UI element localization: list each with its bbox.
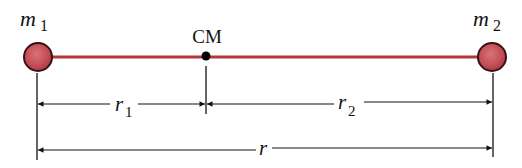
r2-subscript: 2 [348, 103, 356, 119]
mass-m2: m 2 [473, 6, 506, 71]
r2-symbol: r [338, 90, 347, 114]
center-of-mass: CM [192, 26, 222, 61]
r1-symbol: r [115, 92, 124, 116]
mass-m1-symbol: m [20, 6, 36, 31]
r1-subscript: 1 [125, 104, 133, 120]
cm-dot [202, 52, 211, 61]
dimension-r: r [38, 136, 492, 160]
cm-label: CM [192, 26, 222, 47]
mass-m2-subscript: 2 [493, 17, 501, 34]
mass-m1-subscript: 1 [40, 17, 48, 34]
dimension-r2: r 2 [207, 90, 492, 119]
center-of-mass-diagram: m 1 m 2 CM r 1 r 2 r [0, 0, 522, 168]
mass-m1: m 1 [20, 6, 52, 71]
dimension-r1: r 1 [38, 92, 205, 120]
r-symbol: r [259, 136, 268, 160]
mass-m2-symbol: m [473, 6, 489, 31]
